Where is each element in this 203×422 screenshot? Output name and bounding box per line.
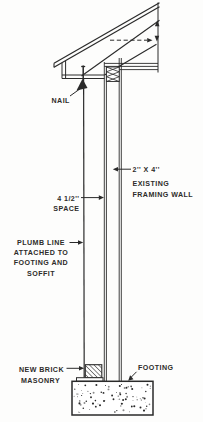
two-by-four-arrowhead-icon: [113, 167, 118, 172]
stipple-dot: [83, 408, 85, 410]
stipple-dot: [95, 406, 97, 408]
existing-framing-wall: [104, 58, 158, 381]
stipple-dot: [140, 406, 142, 408]
stipple-dot: [131, 387, 132, 388]
stipple-dot: [145, 408, 147, 410]
stipple-dot: [121, 403, 123, 405]
stipple-dot: [136, 399, 137, 400]
stipple-dot: [145, 402, 146, 403]
nail-label: NAIL: [52, 97, 71, 105]
stipple-dot: [92, 403, 94, 405]
stipple-dot: [82, 393, 83, 394]
stipple-dot: [120, 405, 122, 407]
stipple-dot: [98, 403, 99, 404]
stipple-dot: [129, 411, 130, 412]
brick-hatched-block: [85, 365, 102, 378]
stipple-dot: [78, 384, 79, 385]
stipple-dot: [86, 401, 88, 403]
stipple-dot: [74, 389, 75, 390]
stipple-dot: [77, 396, 78, 397]
stipple-dot: [74, 396, 75, 397]
stipple-dot: [79, 400, 81, 402]
stipple-dot: [118, 396, 119, 397]
annotations: NAIL 2'' X 4'' EXISTING FRAMING WALL 4 1…: [14, 79, 194, 385]
stipple-dot: [133, 405, 135, 407]
footing-structure: [72, 381, 153, 415]
diagram-canvas: NAIL 2'' X 4'' EXISTING FRAMING WALL 4 1…: [0, 0, 203, 422]
stipple-dot: [136, 396, 137, 397]
brick-arrowhead-icon: [79, 366, 84, 371]
stipple-dot: [100, 391, 102, 393]
stipple-dot: [114, 411, 116, 413]
stipple-dot: [81, 395, 82, 396]
brick-label-line1: NEW BRICK: [19, 366, 64, 374]
stipple-dot: [80, 404, 82, 406]
two-by-four-label: 2'' X 4'': [133, 166, 160, 174]
stipple-dot: [99, 404, 101, 406]
stipple-dot: [95, 400, 97, 402]
wall-section-diagram: NAIL 2'' X 4'' EXISTING FRAMING WALL 4 1…: [0, 0, 203, 422]
stipple-dot: [84, 384, 86, 386]
stipple-dot: [141, 387, 142, 388]
stipple-dot: [113, 398, 115, 400]
stipple-dot: [124, 387, 126, 389]
footing-leader-line: [131, 372, 137, 378]
stipple-dot: [119, 392, 121, 394]
blocking-cross-bracing: [106, 67, 119, 82]
stipple-dot: [78, 412, 79, 413]
space-arrowhead-icon: [99, 195, 104, 200]
stipple-dot: [140, 398, 141, 399]
stipple-dot: [146, 406, 147, 407]
stipple-dot: [103, 392, 105, 394]
stipple-dot: [147, 384, 149, 386]
stipple-dot: [126, 387, 128, 389]
brick-label-line2: MASONRY: [21, 377, 60, 385]
footing-block: [72, 381, 153, 415]
stipple-dot: [122, 399, 124, 401]
stipple-dot: [145, 391, 146, 392]
stipple-dot: [103, 400, 105, 402]
stipple-dot: [141, 400, 142, 401]
space-label-line2: SPACE: [53, 205, 79, 213]
stipple-dot: [108, 386, 110, 388]
stipple-dot: [119, 394, 121, 396]
plumb-line-assembly: [81, 66, 85, 381]
stipple-dot: [76, 394, 77, 395]
stipple-dot: [90, 396, 92, 398]
dimension-down-arrow-icon: [155, 36, 160, 42]
nail-arrowhead-icon: [77, 79, 88, 91]
stipple-dot: [118, 399, 119, 400]
space-label-line1: 4 1/2'': [57, 195, 79, 203]
stipple-dot: [84, 402, 86, 404]
stipple-dot: [89, 409, 90, 410]
stipple-dot: [131, 388, 133, 390]
stipple-dot: [122, 409, 124, 411]
stipple-dot: [90, 393, 91, 394]
stipple-dot: [93, 392, 95, 394]
plumb-label-line4: SOFFIT: [27, 270, 55, 278]
footing-label: FOOTING: [138, 364, 173, 372]
plumb-arrowhead-icon: [78, 240, 83, 245]
stipple-dot: [144, 397, 146, 399]
stipple-dot: [119, 385, 121, 387]
stipple-dot: [126, 396, 128, 398]
stipple-dot: [111, 395, 113, 397]
plumb-label-line3: FOOTING AND: [14, 259, 68, 267]
stipple-dot: [149, 404, 151, 406]
stipple-dot: [87, 391, 88, 392]
stipple-dot: [116, 392, 117, 393]
stipple-dot: [79, 412, 80, 413]
plumb-line: [84, 79, 85, 381]
plumb-label-line1: PLUMB LINE: [17, 239, 65, 247]
stipple-dot: [108, 388, 110, 390]
stipple-dot: [81, 390, 82, 391]
existing-wall-label-line1: EXISTING: [133, 180, 170, 188]
stipple-dot: [142, 397, 143, 398]
plumb-label-line2: ATTACHED TO: [14, 249, 69, 257]
stipple-dot: [125, 398, 127, 400]
stipple-dot: [116, 410, 117, 411]
roof-sheathing-top-line: [54, 3, 160, 64]
stipple-dot: [150, 388, 151, 389]
stipple-dot: [143, 410, 145, 412]
stipple-dot: [131, 406, 133, 408]
